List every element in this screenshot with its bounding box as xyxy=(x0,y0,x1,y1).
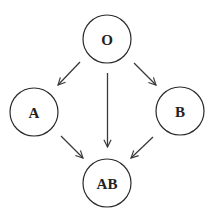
edges xyxy=(58,62,156,158)
node-ab-label: AB xyxy=(97,176,118,192)
edge-o-to-a xyxy=(58,62,80,85)
edge-o-to-b xyxy=(134,63,156,85)
diagram-canvas: O A B AB xyxy=(0,0,215,222)
node-o-label: O xyxy=(101,32,113,48)
node-b-label: B xyxy=(175,104,185,120)
node-ab: AB xyxy=(83,159,131,207)
node-o: O xyxy=(83,15,131,63)
node-a: A xyxy=(10,88,58,136)
edge-b-to-ab xyxy=(131,137,153,158)
edge-a-to-ab xyxy=(61,136,83,158)
node-b: B xyxy=(156,87,204,135)
node-a-label: A xyxy=(29,105,40,121)
